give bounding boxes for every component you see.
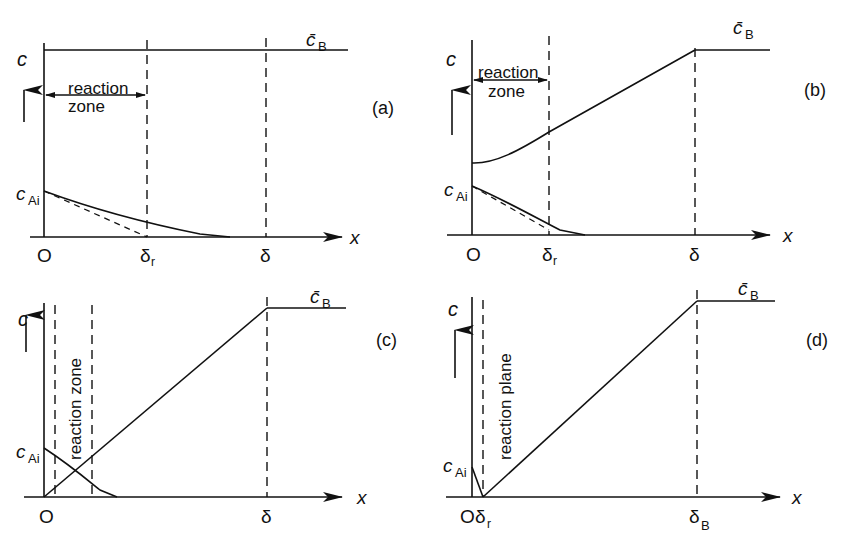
x-axis-label: x — [791, 487, 803, 508]
concentration-profiles-figure: c reaction zone (a) c Ai c̄ B x O δ r δ … — [0, 0, 846, 538]
panel-tag: (a) — [372, 98, 394, 118]
tangent-dashed-line — [44, 191, 147, 237]
cb-label: c̄ — [306, 29, 316, 50]
zone-label-vertical: reaction zone — [66, 358, 85, 460]
cai-label: c — [16, 183, 26, 204]
tick-delta-b-sub: B — [701, 518, 710, 533]
cb-label-sub: B — [322, 296, 331, 311]
cai-label-sub: Ai — [455, 465, 467, 480]
tick-delta: δ — [260, 245, 271, 266]
zone-label-line2: zone — [488, 82, 525, 101]
tick-delta-r-sub: r — [487, 517, 491, 531]
panel-c: c reaction zone (c) c Ai c̄ B x O δ — [16, 286, 397, 527]
cai-label: c — [16, 441, 26, 462]
curve-a — [472, 467, 483, 497]
y-axis-label: c — [17, 48, 27, 70]
tick-delta-r: δ — [475, 506, 486, 527]
curve-a — [44, 191, 230, 237]
panel-a: c reaction zone (a) c Ai c̄ B x O δ r δ — [16, 29, 394, 269]
cb-label: c̄ — [733, 17, 743, 38]
tick-delta-r-sub: r — [553, 254, 557, 268]
zone-label-line1: reaction — [478, 63, 538, 82]
cai-label-sub: Ai — [28, 451, 40, 466]
zone-label-line1: reaction — [68, 79, 128, 98]
x-axis-label: x — [782, 225, 794, 246]
tangent-dashed-line — [472, 186, 549, 230]
zone-label-vertical: reaction plane — [496, 353, 515, 460]
cai-label: c — [443, 455, 453, 476]
panel-tag: (c) — [376, 330, 397, 350]
origin-label: O — [460, 506, 475, 527]
cai-label: c — [444, 179, 454, 200]
tick-delta: δ — [261, 506, 272, 527]
panel-tag: (b) — [804, 80, 826, 100]
y-axis-label: c — [448, 298, 458, 320]
cb-label-sub: B — [750, 288, 759, 303]
panel-d: c reaction plane (d) c Ai c̄ B x O δ r δ… — [443, 278, 828, 533]
y-axis-label: c — [18, 308, 28, 330]
origin-label: O — [37, 245, 52, 266]
panel-tag: (d) — [806, 330, 828, 350]
tick-delta: δ — [689, 244, 700, 265]
tick-delta-r: δ — [140, 245, 151, 266]
panel-b: c reaction zone (b) c Ai c̄ B x O δ r δ — [444, 17, 826, 268]
cb-label: c̄ — [310, 286, 320, 307]
tick-delta-r-sub: r — [151, 255, 155, 269]
tick-delta-b: δ — [689, 506, 700, 527]
origin-label: O — [39, 506, 54, 527]
cb-label-sub: B — [745, 27, 754, 42]
zone-label-line2: zone — [68, 97, 105, 116]
x-axis-label: x — [356, 487, 368, 508]
cb-label: c̄ — [738, 278, 748, 299]
tick-delta-r: δ — [542, 244, 553, 265]
cai-label-sub: Ai — [456, 189, 468, 204]
origin-label: O — [466, 244, 481, 265]
x-axis-label: x — [349, 227, 361, 248]
curve-b — [483, 301, 697, 497]
y-axis-label: c — [446, 48, 456, 70]
cb-label-sub: B — [318, 39, 327, 54]
curve-a — [472, 186, 585, 235]
cai-label-sub: Ai — [28, 193, 40, 208]
